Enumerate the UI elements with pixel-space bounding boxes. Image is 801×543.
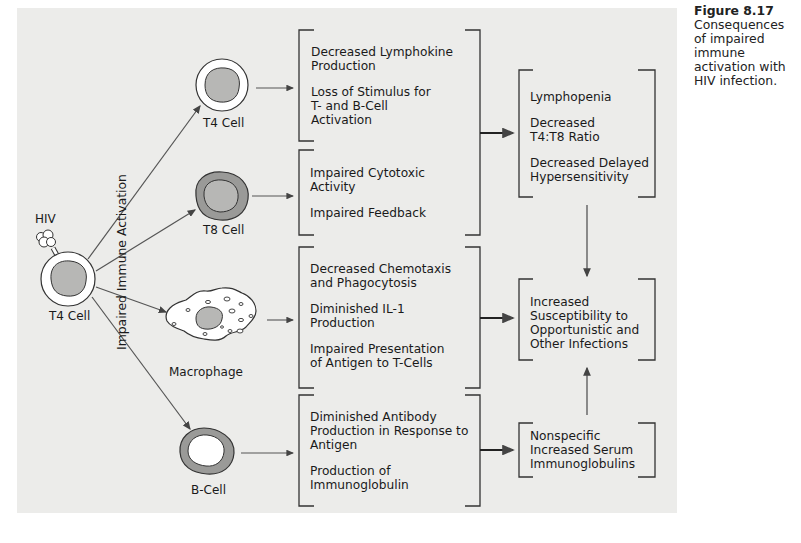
macrophage-icon (166, 288, 256, 340)
t8-cell-icon (196, 172, 248, 220)
effect-item: Loss of Stimulus for T- and B-Cell Activ… (311, 85, 453, 127)
effect-item: Production of Immunoglobulin (310, 464, 468, 492)
outcome-susceptibility-box: Increased Susceptibility to Opportunisti… (530, 295, 639, 351)
outcome-item: Increased Susceptibility to Opportunisti… (530, 295, 639, 351)
effect-item: Impaired Feedback (310, 206, 426, 220)
source-t4-cell-icon (41, 252, 95, 306)
outcome-lymphopenia-box: Lymphopenia Decreased T4:T8 Ratio Decrea… (530, 90, 649, 184)
upper-effects-bracket-right (465, 30, 480, 235)
source-t4-cell-label: T4 Cell (49, 309, 90, 323)
figure-number: Figure 8.17 (694, 4, 799, 18)
outcome-item: Decreased Delayed Hypersensitivity (530, 156, 649, 184)
effect-item: Decreased Chemotaxis and Phagocytosis (310, 262, 451, 290)
outcome-item: Decreased T4:T8 Ratio (530, 116, 649, 144)
outcome-susceptibility-bracket-right (638, 279, 655, 360)
link-to-macrophage (96, 287, 166, 312)
outcome-item: Nonspecific Increased Serum Immunoglobul… (530, 429, 635, 471)
effect-item: Impaired Presentation of Antigen to T-Ce… (310, 342, 451, 370)
impaired-immune-activation-label: Impaired Immune Activation (114, 174, 129, 350)
bcell-effects-box: Diminished Antibody Production in Respon… (310, 410, 468, 492)
outcome-immunoglobulins-bracket-right (638, 423, 655, 477)
outcome-immunoglobulins-box: Nonspecific Increased Serum Immunoglobul… (530, 429, 635, 471)
t8-cell-label: T8 Cell (203, 223, 244, 237)
effect-item: Impaired Cytotoxic Activity (310, 166, 426, 194)
macrophage-label: Macrophage (169, 365, 243, 379)
figure-caption-text: Consequences of impaired immune activati… (694, 17, 786, 88)
effect-item: Decreased Lymphokine Production (311, 45, 453, 73)
macrophage-effects-box: Decreased Chemotaxis and Phagocytosis Di… (310, 262, 451, 370)
hiv-label: HIV (35, 212, 56, 226)
effect-item: Diminished Antibody Production in Respon… (310, 410, 468, 452)
macrophage-effects-bracket-right (465, 247, 480, 388)
b-cell-label: B-Cell (191, 483, 226, 497)
link-to-t4 (88, 106, 200, 259)
t4-cell-icon (196, 59, 248, 111)
t4-effects-box: Decreased Lymphokine Production Loss of … (311, 45, 453, 127)
link-to-t8 (96, 210, 195, 271)
t8-effects-box: Impaired Cytotoxic Activity Impaired Fee… (310, 166, 426, 220)
effect-item: Diminished IL-1 Production (310, 302, 451, 330)
hiv-virus-icon (37, 230, 59, 257)
b-cell-icon (180, 428, 234, 474)
t4-cell-label: T4 Cell (203, 116, 244, 130)
figure-caption: Figure 8.17 Consequences of impaired imm… (694, 4, 799, 88)
outcome-item: Lymphopenia (530, 90, 649, 104)
